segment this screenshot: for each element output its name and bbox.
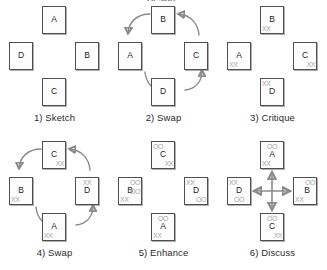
panel-6-stage: A D B C — [218, 137, 327, 245]
workflow-diagram: Design A D B C 1) Sketch — [0, 0, 327, 270]
card-label: C — [43, 87, 65, 96]
card-d: D — [9, 42, 33, 70]
card-a: A — [118, 42, 142, 70]
card-label: C — [185, 51, 207, 60]
critique-mark-icon — [120, 196, 128, 203]
card-label: C — [294, 51, 316, 60]
card-b: B — [9, 177, 33, 205]
critique-mark-icon — [44, 232, 52, 239]
panel-3-critique: B A C D 3) Critique — [218, 0, 327, 135]
critique-mark-icon — [56, 160, 64, 167]
card-a: A — [42, 213, 66, 241]
panel-4-caption: 4) Swap — [0, 247, 109, 258]
card-label: D — [76, 186, 98, 195]
critique-mark-icon — [307, 61, 315, 68]
critique-mark-icon — [11, 196, 19, 203]
enhance-mark-icon — [152, 215, 174, 222]
card-label: B — [152, 15, 174, 24]
card-c: C — [151, 141, 175, 169]
panel-6-discuss: A D B C 6) Discuss — [218, 135, 327, 270]
critique-mark-icon — [262, 80, 270, 87]
card-label: C — [43, 150, 65, 159]
card-label: D — [261, 87, 283, 96]
panel-1-stage: A D B C — [0, 2, 109, 110]
card-c: C — [42, 78, 66, 106]
card-label: A — [119, 51, 141, 60]
critique-mark-icon — [262, 25, 270, 32]
enhance-mark-icon — [153, 143, 163, 150]
critique-mark-icon — [274, 232, 282, 239]
card-label: D — [228, 186, 250, 195]
card-label: A — [261, 150, 283, 159]
enhance-mark-icon — [261, 215, 283, 222]
card-label: D — [152, 87, 174, 96]
card-label: B — [298, 186, 316, 195]
critique-mark-icon — [262, 160, 270, 167]
card-label: C — [152, 150, 174, 159]
card-d: D — [151, 78, 175, 106]
card-b: B — [75, 42, 99, 70]
critique-mark-icon — [165, 160, 173, 167]
critique-mark-icon — [186, 179, 194, 186]
critique-mark-icon — [76, 179, 98, 186]
critique-mark-icon — [229, 179, 237, 186]
panel-2-caption: 2) Swap — [109, 112, 218, 123]
card-d: D — [260, 78, 284, 106]
panel-2-stage: B A C D — [109, 2, 218, 110]
critique-mark-icon — [295, 196, 303, 203]
enhance-mark-icon — [130, 179, 140, 186]
card-label: A — [43, 222, 65, 231]
enhance-mark-icon — [228, 196, 250, 203]
card-c: C — [260, 213, 284, 241]
enhance-mark-icon — [305, 179, 315, 186]
card-c: C — [42, 141, 66, 169]
panel-4-stage: C B D A — [0, 137, 109, 245]
card-label: A — [43, 15, 65, 24]
panel-3-caption: 3) Critique — [218, 112, 327, 123]
card-b: B — [260, 6, 284, 34]
panel-3-stage: B A C D — [218, 2, 327, 110]
panel-4-swap: C B D A 4) Swap — [0, 135, 109, 270]
card-label: B — [76, 51, 98, 60]
enhance-mark-icon — [196, 196, 206, 203]
critique-mark-icon — [153, 232, 161, 239]
panel-5-stage: C B D A — [109, 137, 218, 245]
card-a: A — [42, 6, 66, 34]
panel-2-swap: B A C D 2) Swap — [109, 0, 218, 135]
card-d: D — [184, 177, 208, 205]
card-b: B — [118, 177, 142, 205]
panel-5-enhance: C B D A 5) Enhance — [109, 135, 218, 270]
card-b: B — [293, 177, 317, 205]
card-d: D — [227, 177, 251, 205]
card-c: C — [184, 42, 208, 70]
critique-mark-icon — [229, 61, 237, 68]
card-label: D — [185, 186, 207, 195]
card-label: C — [261, 222, 283, 231]
card-d: D — [75, 177, 99, 205]
card-b: B — [151, 6, 175, 34]
card-label: D — [10, 51, 32, 60]
card-label: B — [261, 15, 283, 24]
card-a: A — [227, 42, 251, 70]
card-label: A — [228, 51, 250, 60]
card-label: A — [152, 222, 174, 231]
panel-1-caption: 1) Sketch — [0, 112, 109, 123]
enhance-mark-icon — [261, 143, 283, 150]
panel-5-caption: 5) Enhance — [109, 247, 218, 258]
card-a: A — [260, 141, 284, 169]
panel-1-sketch: A D B C 1) Sketch — [0, 0, 109, 135]
card-c: C — [293, 42, 317, 70]
panel-6-caption: 6) Discuss — [218, 247, 327, 258]
card-a: A — [151, 213, 175, 241]
enhance-mark-icon — [130, 188, 140, 195]
card-label: B — [10, 186, 32, 195]
